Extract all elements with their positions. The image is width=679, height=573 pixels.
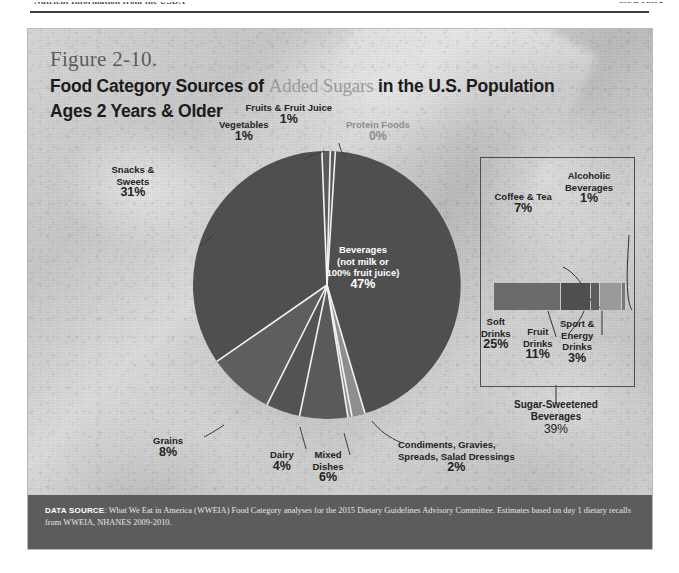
page-header: Nutrient Information from the USDA CHAPT… xyxy=(0,0,679,18)
inset-label-coffee-tea: Coffee & Tea 7% xyxy=(495,191,552,214)
inset-label-soft-drinks: Soft Drinks 25% xyxy=(481,316,511,351)
pie-label-condiments-pct: 2% xyxy=(398,462,515,474)
pie-label-beverages: Beverages (not milk or 100% fruit juice)… xyxy=(327,244,400,290)
inset-label-fruit-drinks-text1: Fruit xyxy=(527,326,548,337)
inset-label-alcoholic-pct: 1% xyxy=(565,193,613,205)
inset-total-pct: 39% xyxy=(514,423,598,435)
inset-bar-segment-coffee-tea xyxy=(600,283,621,310)
inset-panel: Coffee & Tea 7% Alcoholic Beverages 1% S… xyxy=(480,157,635,387)
inset-label-sport-energy-drinks: Sport & Energy Drinks 3% xyxy=(560,318,594,364)
figure-container: Figure 2-10. Food Category Sources of Ad… xyxy=(27,28,653,550)
pie-label-dairy: Dairy 4% xyxy=(270,449,294,472)
pie-label-mixed-text1: Mixed xyxy=(315,449,342,460)
inset-label-coffee-tea-pct: 7% xyxy=(495,203,552,215)
pie-label-protein-foods: Protein Foods 0% xyxy=(346,119,410,142)
inset-bar-segment-soft-drinks xyxy=(494,283,560,310)
pie-label-snacks-text1: Snacks & xyxy=(112,164,155,175)
pie-label-mixed-dishes: Mixed Dishes 6% xyxy=(313,449,344,484)
pie-label-protein-pct: 0% xyxy=(346,131,410,143)
pie-label-condiments-text1: Condiments, Gravies, xyxy=(398,439,496,450)
inset-label-sport-text1: Sport & xyxy=(560,318,594,329)
pie-label-grains-pct: 8% xyxy=(153,447,183,459)
inset-total-text2: Beverages xyxy=(531,411,582,422)
pie-label-condiments: Condiments, Gravies, Spreads, Salad Dres… xyxy=(398,439,515,474)
data-source-label: DATA SOURCE xyxy=(45,506,104,515)
inset-label-alcoholic-beverages: Alcoholic Beverages 1% xyxy=(565,170,613,205)
pie-label-grains: Grains 8% xyxy=(153,435,183,458)
pie-label-snacks-sweets: Snacks & Sweets 31% xyxy=(112,164,155,199)
inset-total-label: Sugar-Sweetened Beverages 39% xyxy=(514,399,598,435)
pie-label-snacks-pct: 31% xyxy=(112,187,155,199)
inset-bar-segment-fruit-drinks xyxy=(561,283,590,310)
page-header-left-text: Nutrient Information from the USDA xyxy=(34,0,185,6)
pie-label-fruits-pct: 1% xyxy=(246,114,333,126)
inset-label-fruit-drinks: Fruit Drinks 11% xyxy=(523,326,553,361)
pie-label-dairy-pct: 4% xyxy=(270,461,294,473)
pie-label-vegetables-pct: 1% xyxy=(219,131,269,143)
pie-label-beverages-pct: 47% xyxy=(327,279,400,291)
data-source-text: DATA SOURCE: What We Eat in America (WWE… xyxy=(45,505,635,529)
inset-bar-segment-sport-energy-drinks xyxy=(591,283,599,310)
pie-label-mixed-pct: 6% xyxy=(313,472,344,484)
inset-label-fruit-drinks-pct: 11% xyxy=(523,349,553,361)
inset-total-text1: Sugar-Sweetened xyxy=(514,399,598,410)
inset-label-sport-pct: 3% xyxy=(560,353,594,365)
page-header-rule xyxy=(30,11,649,13)
data-source-body: : What We Eat in America (WWEIA) Food Ca… xyxy=(45,506,631,527)
pie-label-beverages-text2: (not milk or xyxy=(337,256,389,267)
inset-label-soft-drinks-text1: Soft xyxy=(487,316,505,327)
pie-label-beverages-text1: Beverages xyxy=(339,244,387,255)
inset-label-soft-drinks-pct: 25% xyxy=(481,339,511,351)
pie-label-fruits-fruit-juice: Fruits & Fruit Juice 1% xyxy=(246,102,333,125)
inset-label-alcoholic-text1: Alcoholic xyxy=(568,170,611,181)
inset-bar-segment-alcoholic-beverages xyxy=(622,283,625,310)
inset-stacked-bar xyxy=(494,283,624,310)
page-header-right-text: CHAPTER 2 xyxy=(618,0,663,5)
inset-label-sport-text2: Energy xyxy=(561,330,593,341)
data-source-footer: DATA SOURCE: What We Eat in America (WWE… xyxy=(28,495,652,549)
